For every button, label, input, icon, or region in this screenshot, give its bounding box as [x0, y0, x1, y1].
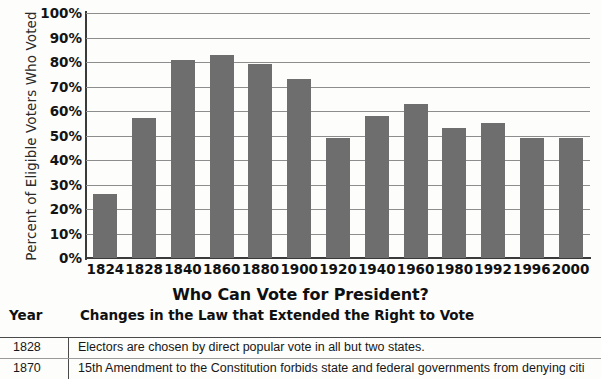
bar-1992	[481, 123, 505, 258]
y-tick-0: 0%	[26, 250, 82, 266]
table-title: Who Can Vote for President?	[0, 282, 601, 304]
y-tick-100: 100%	[26, 5, 82, 21]
bar-1996	[520, 138, 544, 258]
x-tick-1992: 1992	[474, 261, 513, 277]
x-tick-1960: 1960	[396, 261, 435, 277]
plot-area	[86, 13, 590, 258]
y-tick-30: 30%	[26, 177, 82, 193]
x-tick-1860: 1860	[202, 261, 241, 277]
x-tick-1880: 1880	[241, 261, 280, 277]
y-tick-20: 20%	[26, 201, 82, 217]
y-tick-70: 70%	[26, 79, 82, 95]
bar-1840	[171, 60, 195, 258]
row-year: 1828	[13, 340, 41, 354]
bar-1900	[287, 79, 311, 258]
voting-law-table: Who Can Vote for President? Year Changes…	[0, 282, 601, 369]
gridline-0	[86, 258, 590, 259]
x-tick-1840: 1840	[164, 261, 203, 277]
voter-turnout-chart: Percent of Eligible Voters Who Voted 100…	[0, 0, 601, 280]
x-tick-1940: 1940	[357, 261, 396, 277]
x-tick-1920: 1920	[319, 261, 358, 277]
x-tick-1996: 1996	[512, 261, 551, 277]
bar-1960	[404, 104, 428, 258]
column-divider	[68, 359, 69, 379]
table-row: 187015th Amendment to the Constitution f…	[0, 359, 601, 379]
x-tick-1824: 1824	[86, 261, 125, 277]
gridline-100	[86, 13, 590, 14]
column-header-year: Year	[9, 307, 42, 323]
x-tick-1828: 1828	[125, 261, 164, 277]
x-tick-1900: 1900	[280, 261, 319, 277]
gridline-60	[86, 111, 590, 112]
y-tick-10: 10%	[26, 226, 82, 242]
bar-1824	[93, 194, 117, 258]
x-tick-2000: 2000	[551, 261, 590, 277]
bar-1828	[132, 118, 156, 258]
gridline-80	[86, 62, 590, 63]
bar-1980	[442, 128, 466, 258]
table-row: 1828Electors are chosen by direct popula…	[0, 338, 601, 359]
y-tick-60: 60%	[26, 103, 82, 119]
table-header-row: Year Changes in the Law that Extended th…	[0, 307, 601, 329]
y-axis-tick-labels: 100%90%80%70%60%50%40%30%20%10%0%	[26, 5, 82, 267]
bar-1940	[365, 116, 389, 258]
y-tick-80: 80%	[26, 54, 82, 70]
row-description: Electors are chosen by direct popular vo…	[78, 340, 597, 354]
bar-1880	[248, 64, 272, 258]
y-tick-90: 90%	[26, 30, 82, 46]
gridline-70	[86, 87, 590, 88]
x-axis-tick-labels: 1824182818401860188019001920194019601980…	[86, 261, 590, 281]
bar-1920	[326, 138, 350, 258]
column-header-changes: Changes in the Law that Extended the Rig…	[80, 307, 474, 323]
gridline-50	[86, 136, 590, 137]
gridline-90	[86, 38, 590, 39]
x-tick-1980: 1980	[435, 261, 474, 277]
bar-1860	[210, 55, 234, 258]
row-year: 1870	[13, 361, 41, 375]
row-description: 15th Amendment to the Constitution forbi…	[78, 361, 597, 375]
column-divider	[68, 338, 69, 358]
table-body: 1828Electors are chosen by direct popula…	[0, 337, 601, 379]
bar-2000	[559, 138, 583, 258]
y-tick-40: 40%	[26, 152, 82, 168]
y-tick-50: 50%	[26, 128, 82, 144]
